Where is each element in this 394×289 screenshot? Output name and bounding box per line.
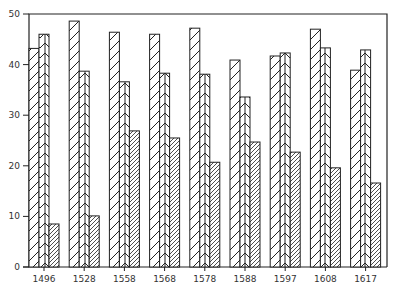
x-tick-label: 1496 xyxy=(33,274,56,284)
bar-group-1558 xyxy=(109,32,139,267)
bar-group-1617 xyxy=(351,50,381,267)
x-tick-label: 1617 xyxy=(354,274,377,284)
bar-1568-series-1 xyxy=(150,34,160,267)
x-tick-label: 1558 xyxy=(113,274,136,284)
bar-1496-series-1 xyxy=(29,48,39,267)
bar-1608-series-2 xyxy=(320,48,330,267)
x-tick-label: 1588 xyxy=(234,274,257,284)
bar-1496-series-3 xyxy=(49,224,59,267)
y-tick-label: 10 xyxy=(9,211,21,221)
bars-group xyxy=(29,21,381,267)
bar-1588-series-3 xyxy=(250,142,260,267)
bar-1608-series-3 xyxy=(330,168,340,267)
bar-1597-series-1 xyxy=(270,56,280,267)
bar-1578-series-1 xyxy=(190,28,200,267)
bar-1578-series-2 xyxy=(200,74,210,267)
bar-group-1588 xyxy=(230,60,260,267)
bar-1568-series-3 xyxy=(170,138,180,267)
bar-1558-series-2 xyxy=(119,82,129,267)
bar-1617-series-2 xyxy=(361,50,371,267)
y-tick-label: 40 xyxy=(9,60,21,70)
bar-1528-series-1 xyxy=(69,21,79,267)
x-tick-label: 1578 xyxy=(193,274,216,284)
bar-1528-series-2 xyxy=(79,71,89,267)
y-tick-label: 30 xyxy=(9,110,21,120)
bar-1558-series-1 xyxy=(109,32,119,267)
bar-1558-series-3 xyxy=(129,131,139,267)
x-tick-label: 1597 xyxy=(274,274,297,284)
x-tick-label: 1608 xyxy=(314,274,337,284)
bar-1578-series-3 xyxy=(210,162,220,267)
bar-group-1578 xyxy=(190,28,220,267)
bar-group-1608 xyxy=(310,29,340,267)
bar-1496-series-2 xyxy=(39,34,49,267)
bar-1617-series-1 xyxy=(351,70,361,267)
bar-1597-series-3 xyxy=(290,152,300,267)
x-tick-label: 1528 xyxy=(73,274,96,284)
bar-chart: 0102030405014961528155815681578158815971… xyxy=(0,0,394,289)
bar-1588-series-2 xyxy=(240,97,250,267)
bar-1568-series-2 xyxy=(160,73,170,267)
bar-1597-series-2 xyxy=(280,53,290,267)
y-tick-label: 50 xyxy=(9,9,21,19)
bar-group-1568 xyxy=(150,34,180,267)
bar-1608-series-1 xyxy=(310,29,320,267)
bar-group-1597 xyxy=(270,53,300,267)
bar-group-1528 xyxy=(69,21,99,267)
x-tick-label: 1568 xyxy=(153,274,176,284)
bar-1588-series-1 xyxy=(230,60,240,267)
bar-1528-series-3 xyxy=(89,216,99,267)
bar-1617-series-3 xyxy=(371,183,381,267)
y-tick-label: 0 xyxy=(14,262,20,272)
y-tick-label: 20 xyxy=(9,161,21,171)
bar-group-1496 xyxy=(29,34,59,267)
